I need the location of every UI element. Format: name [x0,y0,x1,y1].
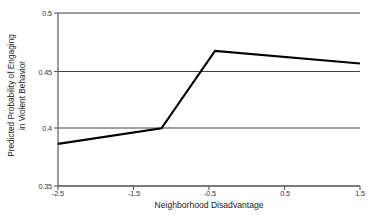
chart-figure: Predicted Probability of Engaging in Vio… [0,0,371,221]
axis-lines [58,13,360,186]
data-series-line [58,51,360,144]
x-axis-ticks [58,186,360,190]
plot-canvas [0,0,371,221]
gridlines [58,13,360,186]
